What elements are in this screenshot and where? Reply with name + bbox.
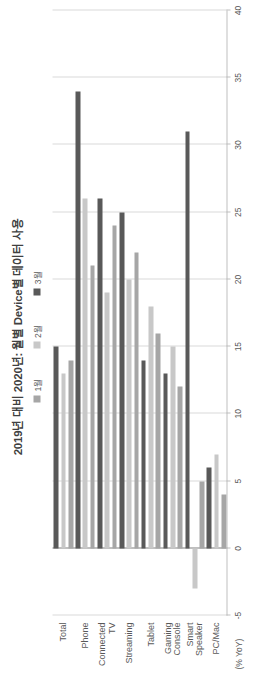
legend-swatch-icon bbox=[33, 288, 40, 295]
bar-row bbox=[176, 10, 183, 615]
value-axis: 4035302520151050-5 bbox=[226, 10, 227, 615]
axis-tick-label: -5 bbox=[232, 611, 242, 619]
legend-swatch-icon bbox=[33, 341, 40, 348]
bar-row bbox=[103, 10, 110, 615]
bar-row bbox=[140, 10, 147, 615]
axis-tick bbox=[226, 547, 230, 548]
bar-row bbox=[212, 10, 219, 615]
legend-item[interactable]: 2월 bbox=[30, 325, 42, 349]
axis-tick bbox=[226, 412, 230, 413]
bar-row bbox=[96, 10, 103, 615]
bar[interactable] bbox=[221, 494, 226, 548]
bar-row bbox=[183, 10, 190, 615]
bar-row bbox=[198, 10, 205, 615]
legend-swatch-icon bbox=[33, 395, 40, 402]
bar[interactable] bbox=[177, 386, 182, 547]
bar[interactable] bbox=[170, 346, 175, 548]
value-axis-unit-label: (% YoY) bbox=[233, 638, 243, 669]
category-label: Smart Speaker bbox=[183, 617, 205, 673]
bar-row bbox=[52, 10, 59, 615]
bar-row bbox=[67, 10, 74, 615]
bar[interactable] bbox=[97, 198, 102, 548]
bar-row bbox=[81, 10, 88, 615]
category-axis-labels: TotalPhoneConnected TVStreamingTabletGam… bbox=[52, 617, 227, 673]
bar-group bbox=[205, 10, 227, 615]
chart-legend: 1월2월3월 bbox=[30, 0, 42, 673]
bar[interactable] bbox=[68, 360, 73, 548]
bar-row bbox=[59, 10, 66, 615]
axis-tick-label: 20 bbox=[232, 274, 242, 283]
bar-group bbox=[183, 10, 205, 615]
axis-tick bbox=[226, 278, 230, 279]
bar-row bbox=[147, 10, 154, 615]
bar[interactable] bbox=[53, 346, 58, 548]
legend-item[interactable]: 3월 bbox=[30, 271, 42, 295]
bar-row bbox=[161, 10, 168, 615]
axis-tick bbox=[226, 211, 230, 212]
bar-row bbox=[169, 10, 176, 615]
legend-label: 3월 bbox=[30, 271, 42, 284]
chart-title: 2019년 대비 2020년: 월별 Device별 데이터 사용 bbox=[8, 0, 24, 673]
bar[interactable] bbox=[75, 91, 80, 548]
bar[interactable] bbox=[148, 306, 153, 548]
legend-item[interactable]: 1월 bbox=[30, 378, 42, 402]
bar-group bbox=[96, 10, 118, 615]
axis-tick bbox=[226, 9, 230, 10]
bar-group bbox=[52, 10, 74, 615]
bar[interactable] bbox=[155, 333, 160, 548]
axis-tick bbox=[226, 614, 230, 615]
category-label: Connected TV bbox=[96, 617, 118, 673]
bar[interactable] bbox=[119, 212, 124, 548]
bar[interactable] bbox=[112, 225, 117, 548]
bar-row bbox=[118, 10, 125, 615]
bar-row bbox=[191, 10, 198, 615]
bar[interactable] bbox=[163, 373, 168, 548]
category-label: Tablet bbox=[140, 617, 162, 673]
bar[interactable] bbox=[104, 292, 109, 547]
category-label: Total bbox=[52, 617, 74, 673]
axis-tick bbox=[226, 480, 230, 481]
legend-label: 2월 bbox=[30, 325, 42, 338]
category-label: Gaming Console bbox=[161, 617, 183, 673]
chart-stage: 2019년 대비 2020년: 월별 Device별 데이터 사용 1월2월3월… bbox=[0, 0, 267, 673]
bar-row bbox=[132, 10, 139, 615]
axis-tick-label: 10 bbox=[232, 409, 242, 418]
axis-tick-label: 40 bbox=[232, 5, 242, 14]
bar[interactable] bbox=[141, 360, 146, 548]
bar[interactable] bbox=[134, 252, 139, 548]
bar[interactable] bbox=[185, 131, 190, 548]
bar-group bbox=[161, 10, 183, 615]
bar-row bbox=[74, 10, 81, 615]
bar-row bbox=[205, 10, 212, 615]
bar-groups bbox=[52, 10, 227, 615]
plot-area bbox=[52, 10, 227, 615]
bar[interactable] bbox=[82, 198, 87, 548]
chart-canvas: 2019년 대비 2020년: 월별 Device별 데이터 사용 1월2월3월… bbox=[0, 0, 267, 673]
axis-tick-label: 15 bbox=[232, 341, 242, 350]
bar-group bbox=[74, 10, 96, 615]
bar[interactable] bbox=[214, 454, 219, 548]
bar[interactable] bbox=[192, 548, 197, 588]
axis-tick bbox=[226, 143, 230, 144]
category-label: Phone bbox=[74, 617, 96, 673]
bar[interactable] bbox=[126, 279, 131, 548]
bar-row bbox=[110, 10, 117, 615]
bar[interactable] bbox=[90, 265, 95, 547]
bar-group bbox=[118, 10, 140, 615]
bar[interactable] bbox=[199, 481, 204, 548]
axis-tick-label: 25 bbox=[232, 207, 242, 216]
axis-tick-label: 5 bbox=[232, 478, 242, 483]
bar-row bbox=[88, 10, 95, 615]
axis-tick-label: 35 bbox=[232, 73, 242, 82]
axis-tick bbox=[226, 76, 230, 77]
axis-tick bbox=[226, 345, 230, 346]
category-label: Streaming bbox=[118, 617, 140, 673]
bar-row bbox=[154, 10, 161, 615]
axis-tick-label: 0 bbox=[232, 545, 242, 550]
bar[interactable] bbox=[206, 467, 211, 548]
bar-group bbox=[140, 10, 162, 615]
bar-row bbox=[125, 10, 132, 615]
legend-label: 1월 bbox=[30, 378, 42, 391]
bar[interactable] bbox=[61, 373, 66, 548]
axis-tick-label: 30 bbox=[232, 140, 242, 149]
